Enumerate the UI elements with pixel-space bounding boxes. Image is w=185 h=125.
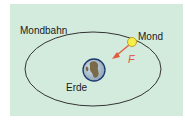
moon-label: Mond [138,32,163,42]
force-label: →F [128,54,135,65]
force-arrow [112,45,129,59]
earth-icon [83,59,105,81]
earth-label: Erde [66,83,87,93]
orbit-label: Mondbahn [20,26,67,36]
vector-arrow-mark: → [128,51,135,58]
moon-icon [128,38,137,47]
orbit-diagram [0,0,185,125]
